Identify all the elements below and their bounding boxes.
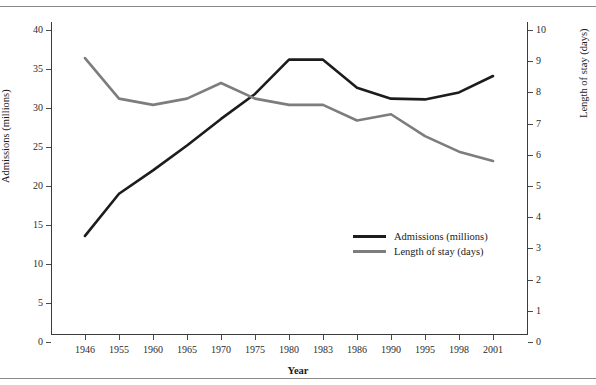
cutoff-header-text <box>0 0 596 3</box>
chart-legend: Admissions (millions)Length of stay (day… <box>353 229 488 259</box>
series-line <box>85 58 493 161</box>
legend-swatch <box>353 250 386 253</box>
bottom-rule <box>0 378 596 379</box>
legend-item: Admissions (millions) <box>353 229 488 244</box>
top-rule <box>0 6 596 7</box>
chart-figure: 0510152025303540 012345678910 1946195519… <box>0 8 596 376</box>
series-line <box>85 60 493 236</box>
left-axis-title: Admissions (millions) <box>0 89 11 183</box>
legend-item: Length of stay (days) <box>353 244 488 259</box>
legend-swatch <box>353 235 386 238</box>
legend-label: Admissions (millions) <box>394 231 488 242</box>
legend-label: Length of stay (days) <box>394 246 484 257</box>
series-lines <box>0 8 596 376</box>
plot-area: 0510152025303540 012345678910 1946195519… <box>0 8 596 376</box>
right-axis-title: Length of stay (days) <box>578 28 589 118</box>
x-axis-title: Year <box>0 365 596 376</box>
